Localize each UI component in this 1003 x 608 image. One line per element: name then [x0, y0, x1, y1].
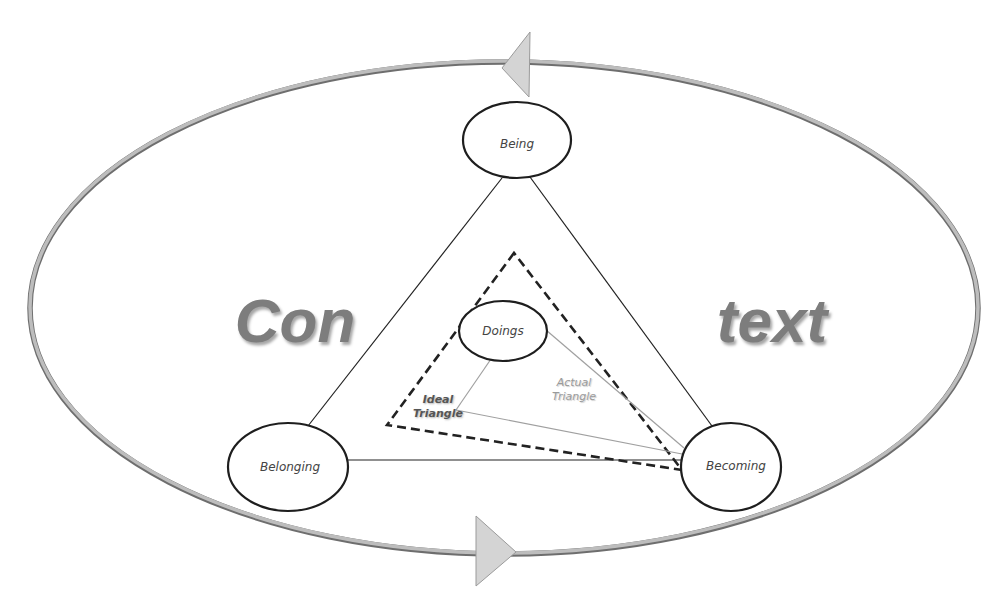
node-label-belonging: Belonging — [260, 460, 320, 474]
actual-triangle-label-line2: Triangle — [552, 390, 596, 404]
actual-triangle-label-line1: Actual — [552, 376, 596, 390]
context-diagram: Con text Being Doings Belonging Becoming… — [0, 0, 1003, 608]
node-label-becoming: Becoming — [706, 459, 766, 473]
cycle-arrow-left-icon — [502, 32, 530, 97]
context-word-right: text — [717, 285, 827, 356]
ideal-triangle-label-line2: Triangle — [413, 407, 463, 421]
diagram-canvas — [0, 0, 1003, 608]
context-word-left: Con — [235, 285, 356, 356]
cycle-arrow-right-icon — [476, 516, 516, 586]
node-label-being: Being — [500, 137, 534, 151]
ideal-triangle-label-line1: Ideal — [413, 393, 463, 407]
ideal-triangle — [387, 253, 682, 470]
actual-triangle-label: Actual Triangle — [552, 376, 596, 404]
ideal-triangle-label: Ideal Triangle — [413, 393, 463, 421]
node-label-doings: Doings — [482, 324, 523, 338]
